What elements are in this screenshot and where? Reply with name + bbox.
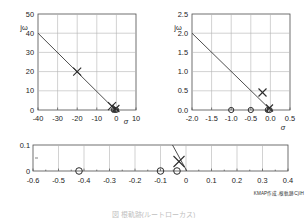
plot-frame [38,14,136,110]
x-ticklabel: -1.0 [225,114,238,123]
figure-caption: 図 根軌跡(ルートローカス) [0,209,307,218]
x-ticklabel: 0.2 [232,176,242,185]
root-locus-figure: 0 10 20 30 40 50 -40 -30 -20 -10 0 10 jω… [0,0,307,218]
x-ticklabel: -0.1 [154,176,167,185]
chart-panel-right: 0.0 0.5 1.0 1.5 2.0 2.5 -2.0 -1.5 -1.0 -… [152,2,307,138]
x-ticklabel: 10 [132,114,140,123]
kmap-watermark: KMAP作成,根軌跡C)IH [254,190,304,196]
y-ticklabel: 1.5 [178,48,188,57]
x-axis-label: σ [281,123,286,132]
x-ticklabel: -0.2 [129,176,142,185]
x-ticklabel: 0.5 [285,114,295,123]
y-axis-label: jω [19,23,28,32]
y-ticklabel: 0.5 [178,86,188,95]
y-tick-labels: 0 0.1 [20,141,30,176]
y-ticklabel: 50 [26,10,34,19]
x-tick-labels: -2.0 -1.5 -1.0 -0.5 0.0 0.5 [186,114,296,123]
x-ticklabel: 0 [114,114,118,123]
x-axis-label: σ [124,117,129,126]
y-ticklabel: 30 [26,48,34,57]
y-axis-label: jω [173,23,182,32]
y-ticklabel: 10 [26,86,34,95]
x-ticklabel: 0 [184,176,188,185]
x-ticklabel: -1.5 [205,114,218,123]
x-ticklabel: 0.3 [257,176,267,185]
x-ticklabel: -0.4 [78,176,91,185]
x-ticklabel: -0.3 [103,176,116,185]
x-tick-labels: -0.6 -0.5 -0.4 -0.3 -0.2 -0.1 0 0.1 0.2 … [27,176,294,185]
y-ticklabel: 2.5 [178,10,188,19]
x-ticklabel: -0.6 [27,176,40,185]
y-ticklabel: 0.1 [20,141,30,150]
x-ticklabel: 0.1 [206,176,216,185]
x-ticklabel: -2.0 [186,114,199,123]
x-ticklabel: -0.5 [244,114,257,123]
plot-frame [192,14,290,110]
plot-area-strip [33,145,288,174]
x-ticklabel: 0.0 [265,114,275,123]
chart-panel-left: 0 10 20 30 40 50 -40 -30 -20 -10 0 10 jω… [0,2,152,138]
plot-area-right [192,14,290,113]
x-ticklabel: 0.4 [283,176,293,185]
x-ticklabel: -30 [52,114,63,123]
plot-area-left [38,14,136,112]
y-ticklabel: 20 [26,67,34,76]
x-ticklabel: -0.5 [52,176,65,185]
x-ticklabel: -40 [33,114,44,123]
y-ticklabel: 0 [26,167,30,176]
x-ticklabel: -20 [72,114,83,123]
x-ticklabel: -10 [91,114,102,123]
y-ticklabel: 1.0 [178,67,188,76]
